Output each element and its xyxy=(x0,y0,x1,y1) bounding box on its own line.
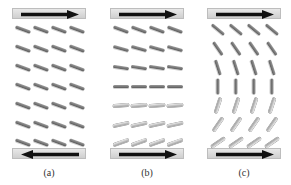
lc-molecule xyxy=(167,85,183,88)
lc-molecule xyxy=(266,41,278,56)
lc-molecule xyxy=(268,97,276,113)
lc-molecule xyxy=(113,121,129,127)
lc-molecule xyxy=(230,41,242,56)
lc-molecule xyxy=(33,82,49,90)
lc-molecule xyxy=(33,101,49,109)
lc-molecule xyxy=(149,85,165,88)
panel-a: (a) xyxy=(12,0,92,185)
lc-molecule xyxy=(265,137,280,149)
lc-molecule xyxy=(69,120,85,128)
arrow-right-icon xyxy=(208,149,282,160)
lc-molecule xyxy=(229,137,244,149)
lc-molecule xyxy=(247,137,262,149)
panel-b: (b) xyxy=(110,0,190,185)
lc-molecule xyxy=(69,44,85,52)
lc-molecule xyxy=(211,23,225,36)
lc-molecule xyxy=(167,103,183,107)
lc-molecule xyxy=(69,25,85,33)
lc-molecule xyxy=(149,25,165,33)
lc-molecule xyxy=(51,82,67,90)
lc-molecule xyxy=(131,121,147,127)
bottom-plate xyxy=(207,148,281,159)
lc-molecule xyxy=(167,25,183,33)
lc-molecule xyxy=(253,79,256,95)
lc-molecule xyxy=(113,25,129,33)
lc-molecule xyxy=(250,97,258,113)
lc-molecule xyxy=(15,138,31,146)
lc-molecule xyxy=(15,44,31,52)
lc-molecule xyxy=(69,82,85,90)
lc-molecule xyxy=(212,117,224,132)
panel-label: (c) xyxy=(207,167,281,178)
lc-molecule xyxy=(113,103,129,107)
lc-molecule xyxy=(113,138,129,146)
lc-molecule xyxy=(167,45,183,52)
lc-molecule xyxy=(33,138,49,146)
top-plate xyxy=(110,8,184,19)
lc-molecule xyxy=(265,23,279,36)
lc-molecule xyxy=(167,121,183,127)
lc-molecule xyxy=(266,117,278,132)
arrow-left-icon xyxy=(13,149,87,160)
lc-molecule xyxy=(212,41,224,56)
lc-molecule xyxy=(15,63,31,71)
lc-molecule xyxy=(268,59,276,75)
lc-molecule xyxy=(271,79,274,95)
lc-molecule xyxy=(149,138,165,146)
lc-molecule xyxy=(113,65,129,70)
lc-molecule xyxy=(69,101,85,109)
lc-molecule xyxy=(250,59,258,75)
lc-molecule xyxy=(51,44,67,52)
lc-molecule xyxy=(131,25,147,33)
lc-molecule xyxy=(15,120,31,128)
lc-molecule xyxy=(149,103,165,107)
lc-molecule xyxy=(33,120,49,128)
lc-molecule xyxy=(15,25,31,33)
lc-molecule xyxy=(217,79,220,95)
lc-molecule xyxy=(235,79,238,95)
lc-molecule xyxy=(214,97,222,113)
top-plate xyxy=(207,8,281,19)
lc-molecule xyxy=(131,85,147,88)
lc-molecule xyxy=(248,41,260,56)
lc-molecule xyxy=(149,121,165,127)
lc-molecule xyxy=(113,85,129,88)
lc-molecule xyxy=(131,65,147,70)
lc-molecule xyxy=(33,63,49,71)
lc-molecule xyxy=(131,103,147,107)
lc-molecule xyxy=(167,138,183,146)
lc-molecule xyxy=(51,138,67,146)
arrow-right-icon xyxy=(13,9,87,20)
panel-label: (b) xyxy=(110,167,184,178)
lc-molecule xyxy=(149,65,165,70)
lc-molecule xyxy=(232,59,240,75)
lc-molecule xyxy=(230,117,242,132)
lc-molecule xyxy=(69,138,85,146)
lc-molecule xyxy=(247,23,261,36)
top-plate xyxy=(12,8,86,19)
arrow-right-icon xyxy=(111,149,185,160)
lc-molecule xyxy=(214,59,222,75)
lc-molecule xyxy=(232,97,240,113)
lc-molecule xyxy=(229,23,243,36)
panel-c: (c) xyxy=(207,0,287,185)
lc-molecule xyxy=(51,25,67,33)
lc-molecule xyxy=(131,45,147,52)
lc-molecule xyxy=(15,82,31,90)
lc-molecule xyxy=(33,44,49,52)
lc-molecule xyxy=(33,25,49,33)
lc-molecule xyxy=(211,137,226,149)
bottom-plate xyxy=(12,148,86,159)
lc-molecule xyxy=(113,45,129,52)
arrow-right-icon xyxy=(111,9,185,20)
lc-molecule xyxy=(51,120,67,128)
panel-label: (a) xyxy=(12,167,86,178)
lc-molecule xyxy=(149,45,165,52)
bottom-plate xyxy=(110,148,184,159)
lc-molecule xyxy=(167,65,183,70)
lc-molecule xyxy=(131,138,147,146)
lc-molecule xyxy=(51,63,67,71)
arrow-right-icon xyxy=(208,9,282,20)
lc-molecule xyxy=(15,101,31,109)
lc-molecule xyxy=(69,63,85,71)
